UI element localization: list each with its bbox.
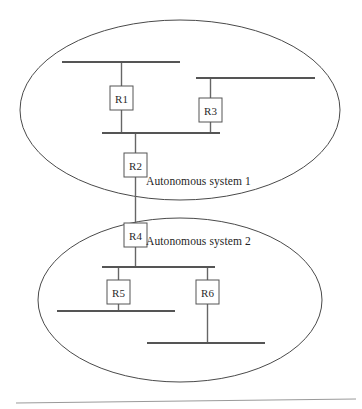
router-r1-label: R1 [115,93,128,105]
router-r4[interactable]: R4 [124,223,147,247]
router-r5-label: R5 [112,287,125,299]
router-r6-label: R6 [201,287,214,299]
as-boundaries [20,20,340,382]
as1-label: Autonomous system 1 [146,175,251,187]
router-r2[interactable]: R2 [124,153,147,177]
router-r6[interactable]: R6 [196,280,219,304]
network-diagram: R1 R3 R2 R4 R5 R6 [0,0,362,409]
router-r5[interactable]: R5 [107,280,130,304]
router-r1[interactable]: R1 [110,86,133,110]
router-r3[interactable]: R3 [199,98,222,122]
router-r2-label: R2 [129,160,142,172]
router-r4-label: R4 [129,230,142,242]
footer-rule [16,399,356,403]
as1-boundary-ellipse [20,20,340,200]
router-r3-label: R3 [204,105,217,117]
as2-label: Autonomous system 2 [146,235,251,247]
bus-segments [57,62,315,343]
diagram-canvas: R1 R3 R2 R4 R5 R6 Autonomous system 1 Au… [0,0,362,409]
